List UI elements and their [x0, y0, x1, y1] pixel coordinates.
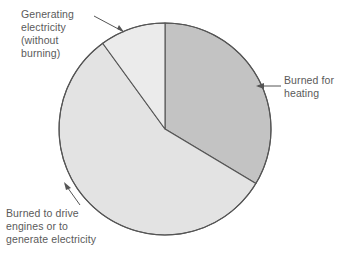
- pie-chart-figure: Generating electricity (without burning)…: [0, 0, 351, 262]
- pie-label-burned-to-drive-engines: Burned to drive engines or to generate e…: [6, 207, 130, 246]
- pie-label-burned-for-heating: Burned for heating: [284, 74, 350, 100]
- pie-label-generating-electricity: Generating electricity (without burning): [21, 8, 117, 60]
